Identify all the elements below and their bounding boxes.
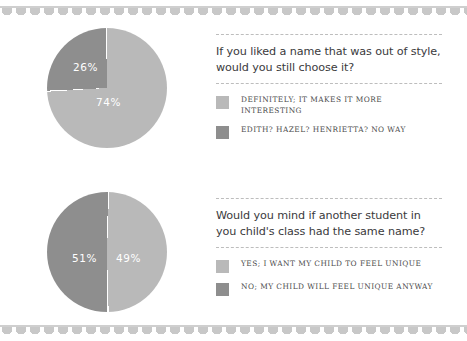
question-block-same-name: Would you mind if another student in you… [216, 198, 442, 296]
question-text-1: If you liked a name that was out of styl… [216, 44, 442, 75]
legend-label: YES; I WANT MY CHILD TO FEEL UNIQUE [241, 259, 421, 270]
legend-1: DEFINITELY; IT MAKES IT MORE INTERESTING… [216, 95, 442, 139]
legend-swatch-icon [216, 126, 229, 139]
pie-slice-label-74: 74% [96, 96, 121, 108]
legend-swatch-icon [216, 260, 229, 273]
legend-item[interactable]: EDITH? HAZEL? HENRIETTA? NO WAY [216, 125, 442, 139]
legend-item[interactable]: YES; I WANT MY CHILD TO FEEL UNIQUE [216, 259, 442, 273]
divider-top-2 [216, 198, 442, 199]
divider-bottom-1 [216, 83, 442, 84]
scalloped-border-top [0, 6, 467, 19]
legend-label: DEFINITELY; IT MAKES IT MORE INTERESTING [241, 95, 442, 116]
divider-top-1 [216, 34, 442, 35]
pie-slice-label-51: 51% [72, 252, 97, 264]
pie-chart-same-name-question [47, 192, 167, 312]
divider-bottom-2 [216, 247, 442, 248]
legend-item[interactable]: NO; MY CHILD WILL FEEL UNIQUE ANYWAY [216, 282, 442, 296]
legend-2: YES; I WANT MY CHILD TO FEEL UNIQUE NO; … [216, 259, 442, 296]
pie-slice-label-26: 26% [73, 61, 98, 73]
pie-slice-label-49: 49% [116, 252, 141, 264]
legend-swatch-icon [216, 96, 229, 109]
legend-item[interactable]: DEFINITELY; IT MAKES IT MORE INTERESTING [216, 95, 442, 116]
legend-label: NO; MY CHILD WILL FEEL UNIQUE ANYWAY [241, 282, 433, 293]
scalloped-border-bottom [0, 325, 467, 338]
legend-label: EDITH? HAZEL? HENRIETTA? NO WAY [241, 125, 406, 136]
pie-chart-style-question [47, 28, 167, 148]
legend-swatch-icon [216, 283, 229, 296]
question-text-2: Would you mind if another student in you… [216, 208, 442, 239]
question-block-style: If you liked a name that was out of styl… [216, 34, 442, 139]
